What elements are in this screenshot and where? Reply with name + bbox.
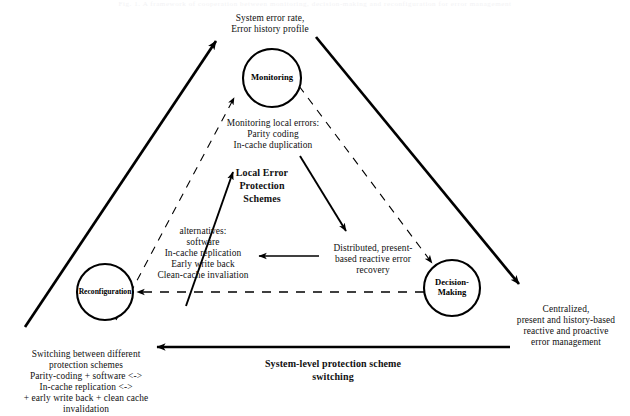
label-top-feedback-line1: System error rate, [195, 13, 345, 24]
label-alternatives-line4: Early write back [148, 259, 258, 270]
node-decision-making-label: Decision- Making [410, 278, 494, 297]
label-alternatives-line2: software [148, 237, 258, 248]
label-distributed-recovery-line3: recovery [318, 265, 428, 276]
label-switching-schemes-line2: protection schemes [4, 360, 168, 371]
label-centralized-line4: error management [502, 337, 630, 348]
error-management-framework-diagram: Fig. 1. A framework of cooperation betwe… [0, 0, 630, 416]
label-alternatives-line3: In-cache replication [148, 248, 258, 259]
label-centralized-line3: reactive and proactive [502, 326, 630, 337]
label-alternatives-line5: Clean-cache invaliation [148, 270, 258, 281]
label-distributed-recovery-line2: based reactive error [318, 254, 428, 265]
label-alternatives-line1: alternatives: [148, 226, 258, 237]
label-switching-schemes-line4: In-cache replication <-> [4, 382, 168, 393]
label-local-error-protection-schemes-line3: Schemes [205, 192, 319, 205]
label-switching-schemes-line3: Parity-coding + software <-> [4, 371, 168, 382]
label-monitoring-local-errors-line1: Monitoring local errors: [192, 118, 354, 129]
label-centralized-line1: Centralized, [502, 304, 630, 315]
node-decision-making-label-line2: Making [410, 288, 494, 298]
label-distributed-recovery: Distributed, present- based reactive err… [318, 243, 428, 276]
label-switching-schemes: Switching between different protection s… [4, 349, 168, 414]
label-centralized-line2: present and history-based [502, 315, 630, 326]
label-top-feedback: System error rate, Error history profile [195, 13, 345, 35]
label-local-error-protection-schemes-line1: Local Error [205, 166, 319, 179]
label-monitoring-local-errors-line3: In-cache duplication [192, 140, 354, 151]
node-monitoring-label: Monitoring [222, 73, 322, 83]
label-local-error-protection-schemes-line2: Protection [205, 179, 319, 192]
label-centralized: Centralized, present and history-based r… [502, 304, 630, 348]
label-switching-schemes-line5: + early write back + clean cache [4, 393, 168, 404]
label-monitoring-local-errors-line2: Parity coding [192, 129, 354, 140]
label-switching-schemes-line6: invalidation [4, 404, 168, 415]
label-top-feedback-line2: Error history profile [195, 24, 345, 35]
label-monitoring-local-errors: Monitoring local errors: Parity coding I… [192, 118, 354, 151]
label-system-level-switching: System-level protection scheme switching [202, 358, 464, 383]
label-system-level-switching-line1: System-level protection scheme [202, 358, 464, 371]
label-alternatives: alternatives: software In-cache replicat… [148, 226, 258, 281]
label-switching-schemes-line1: Switching between different [4, 349, 168, 360]
label-local-error-protection-schemes: Local Error Protection Schemes [205, 166, 319, 205]
node-reconfiguration-label: Reconfiguration [48, 288, 162, 297]
label-system-level-switching-line2: switching [202, 371, 464, 384]
label-distributed-recovery-line1: Distributed, present- [318, 243, 428, 254]
